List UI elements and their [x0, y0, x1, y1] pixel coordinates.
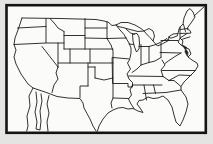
map-frame	[7, 5, 206, 133]
border-ky-tn	[129, 76, 164, 77]
us-map-figure	[0, 0, 213, 144]
border-sd-ne	[85, 38, 108, 39]
border-ar-la	[113, 98, 129, 99]
us-map-canvas	[0, 0, 213, 144]
border-ia-north	[107, 38, 126, 39]
border-mason-dixon	[160, 53, 181, 54]
niagara-line	[169, 37, 170, 41]
border-wi-il	[129, 44, 134, 45]
